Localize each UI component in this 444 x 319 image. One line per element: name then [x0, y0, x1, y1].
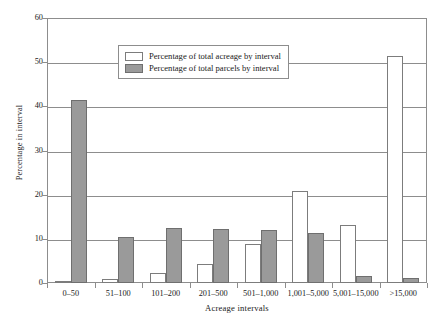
legend-item: Percentage of total acreage by interval [125, 50, 281, 62]
legend-label: Percentage of total parcels by interval [149, 64, 279, 73]
legend-item: Percentage of total parcels by interval [125, 62, 281, 74]
x-tick-mark [47, 283, 48, 288]
bar-parcels [71, 100, 87, 283]
x-tick-mark [142, 283, 143, 288]
legend-swatch-acreage [125, 52, 143, 61]
y-tick-label: 0 [9, 279, 43, 287]
bar-parcels [166, 228, 182, 283]
x-tick-mark [380, 283, 381, 288]
bar-acreage [387, 56, 403, 283]
legend-swatch-parcels [125, 64, 143, 73]
bar-group [47, 18, 95, 283]
x-tick-mark [285, 283, 286, 288]
y-tick-label: 60 [9, 14, 43, 22]
bar-parcels [356, 276, 372, 284]
bar-parcels [403, 278, 419, 283]
bar-acreage [197, 264, 213, 283]
legend-label: Percentage of total acreage by interval [149, 52, 281, 61]
bar-acreage [102, 279, 118, 283]
bar-group [285, 18, 333, 283]
bar-group [332, 18, 380, 283]
bar-parcels [118, 237, 134, 283]
bar-group [380, 18, 428, 283]
bar-acreage [340, 225, 356, 283]
bar-parcels [308, 233, 324, 283]
chart-legend: Percentage of total acreage by intervalP… [118, 45, 289, 79]
y-tick-label: 50 [9, 58, 43, 66]
bar-acreage [150, 273, 166, 283]
bar-acreage [55, 281, 71, 283]
x-tick-mark [237, 283, 238, 288]
y-tick-label: 40 [9, 102, 43, 110]
y-tick-label: 10 [9, 235, 43, 243]
bar-parcels [261, 230, 277, 283]
y-tick-label: 30 [9, 146, 43, 154]
bar-acreage [292, 191, 308, 283]
bar-chart: Percentage in interval 0102030405060 0–5… [0, 0, 444, 319]
x-tick-label: >15,000 [360, 290, 444, 298]
bar-acreage [245, 244, 261, 283]
y-tick-label: 20 [9, 191, 43, 199]
x-tick-mark [95, 283, 96, 288]
x-tick-mark [332, 283, 333, 288]
x-tick-mark [427, 283, 428, 288]
x-axis-title: Acreage intervals [47, 303, 427, 313]
x-tick-mark [190, 283, 191, 288]
bar-parcels [213, 229, 229, 283]
